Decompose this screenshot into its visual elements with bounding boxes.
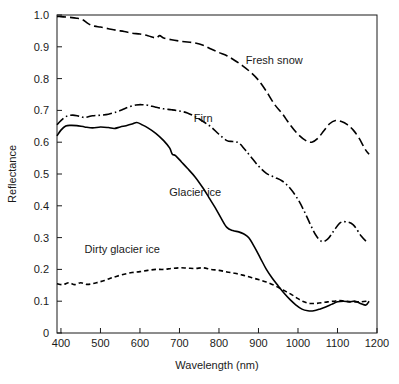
y-axis-tick-label: 0.4: [34, 200, 49, 212]
x-axis-tick-label: 900: [249, 337, 267, 349]
series-label-dirty-glacier-ice: Dirty glacier ice: [85, 243, 160, 255]
x-axis-tick-label: 400: [52, 337, 70, 349]
x-axis-title: Wavelength (nm): [175, 359, 258, 371]
series-label-glacier-ice: Glacier ice: [169, 186, 221, 198]
x-axis-tick-label: 600: [131, 337, 149, 349]
y-axis-tick-label: 0.2: [34, 263, 49, 275]
curve-firn: [57, 105, 367, 243]
curve-glacier-ice: [57, 122, 369, 310]
x-axis-tick-label: 800: [210, 337, 228, 349]
y-axis-tick-label: 0.6: [34, 136, 49, 148]
y-axis-tick-label: 0.8: [34, 73, 49, 85]
plot-frame: [57, 15, 377, 333]
y-axis-tick-label: 0.9: [34, 41, 49, 53]
x-axis-tick-label: 1200: [365, 337, 389, 349]
chart-canvas: 40050060070080090010001100120000.10.20.3…: [0, 0, 399, 384]
spectral-reflectance-figure: 40050060070080090010001100120000.10.20.3…: [0, 0, 399, 384]
x-axis-tick-label: 500: [91, 337, 109, 349]
curve-layer: [57, 17, 369, 311]
series-label-firn: Firn: [194, 112, 213, 124]
series-label-layer: Fresh snowFirnGlacier iceDirty glacier i…: [85, 54, 303, 254]
y-axis-tick-label: 1.0: [34, 9, 49, 21]
x-axis-tick-label: 700: [170, 337, 188, 349]
y-axis-tick-label: 0.5: [34, 168, 49, 180]
x-axis-tick-label: 1000: [286, 337, 310, 349]
y-axis-tick-label: 0: [43, 327, 49, 339]
x-axis-tick-label: 1100: [326, 337, 350, 349]
curve-dirty-glacier-ice: [57, 268, 367, 304]
y-axis-tick-label: 0.1: [34, 295, 49, 307]
series-label-fresh-snow: Fresh snow: [246, 54, 303, 66]
y-axis-tick-label: 0.7: [34, 104, 49, 116]
axis-layer: 40050060070080090010001100120000.10.20.3…: [34, 9, 390, 349]
y-axis-tick-label: 0.3: [34, 232, 49, 244]
y-axis-title: Reflectance: [6, 145, 18, 203]
curve-fresh-snow: [57, 17, 369, 155]
